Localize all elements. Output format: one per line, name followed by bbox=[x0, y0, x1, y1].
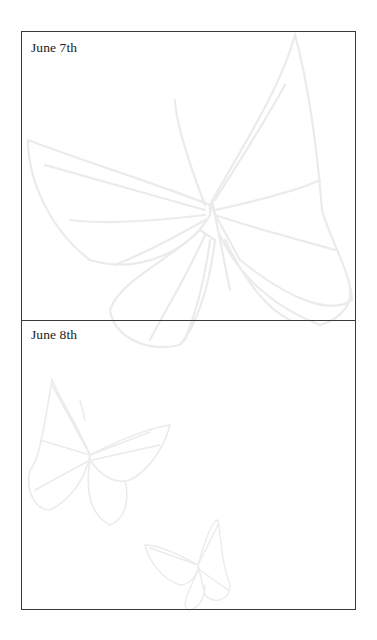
journal-page: June 7th June 8th bbox=[21, 31, 356, 610]
journal-entry-june-8[interactable]: June 8th bbox=[22, 321, 355, 609]
entry-date: June 8th bbox=[31, 327, 77, 343]
journal-entry-june-7[interactable]: June 7th bbox=[22, 32, 355, 321]
entry-date: June 7th bbox=[31, 40, 77, 56]
